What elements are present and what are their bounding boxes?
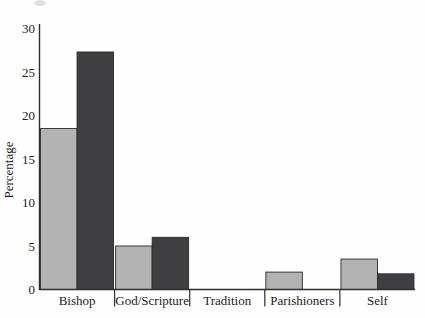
- y-tick-label-30: 30: [22, 21, 35, 36]
- bar-god-scripture-dark-gray-series: [152, 237, 189, 289]
- x-category-label-bishop: Bishop: [59, 293, 96, 308]
- bar-self-dark-gray-series: [377, 274, 414, 290]
- bar-god-scripture-light-gray-series: [116, 246, 152, 290]
- bar-chart: 051015202530PercentageBishopGod/Scriptur…: [0, 0, 425, 318]
- y-tick-label-15: 15: [22, 152, 35, 167]
- x-category-label-tradition: Tradition: [203, 293, 251, 308]
- y-tick-label-5: 5: [29, 239, 36, 254]
- bar-bishop-dark-gray-series: [77, 52, 114, 290]
- y-tick-label-0: 0: [29, 282, 36, 297]
- bar-bishop-light-gray-series: [41, 129, 78, 290]
- x-category-label-parishioners: Parishioners: [270, 293, 334, 308]
- y-tick-label-25: 25: [22, 65, 35, 80]
- y-axis-label: Percentage: [1, 141, 16, 198]
- bar-self-light-gray-series: [341, 259, 378, 289]
- scan-artifact-mark: [34, 0, 46, 6]
- bar-chart-figure: 051015202530PercentageBishopGod/Scriptur…: [0, 0, 425, 318]
- y-tick-label-10: 10: [22, 195, 35, 210]
- y-tick-label-20: 20: [22, 108, 35, 123]
- x-category-label-god-scripture: God/Scripture: [115, 293, 189, 308]
- x-category-label-self: Self: [367, 293, 389, 308]
- bar-parishioners-light-gray-series: [266, 272, 303, 289]
